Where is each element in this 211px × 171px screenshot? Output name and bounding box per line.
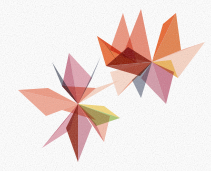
starburst-illustration — [0, 0, 211, 171]
artwork-canvas — [0, 0, 211, 171]
paper-grain-overlay — [0, 0, 211, 171]
